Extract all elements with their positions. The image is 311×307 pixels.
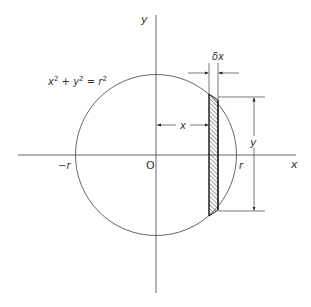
x-axis-label: x (290, 158, 298, 171)
x-distance-label: x (179, 120, 186, 131)
delta-x-label: δx (212, 51, 224, 62)
y-height-label: y (249, 136, 257, 149)
pos-r-label: r (239, 160, 244, 171)
y-axis-label: y (140, 13, 148, 26)
neg-r-label: −r (58, 160, 71, 171)
origin-label: O (146, 159, 155, 172)
eq-equals: = (84, 76, 99, 87)
hatched-strip (209, 94, 218, 216)
circle-equation-label: x2 + y2 = r2 (47, 75, 107, 87)
eq-plus: + (58, 76, 73, 87)
eq-r-exp: 2 (102, 75, 106, 83)
circle-strip-diagram: y x O −r r δx x y x2 + y2 = r2 (0, 0, 311, 307)
